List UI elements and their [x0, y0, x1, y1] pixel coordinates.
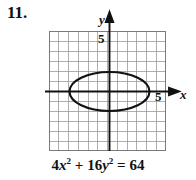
- equation-coef-y: 16: [87, 157, 102, 173]
- coordinate-graph: [49, 31, 166, 151]
- x-axis-label: x: [180, 88, 187, 101]
- equation-exponent-y: 2: [109, 156, 114, 166]
- equation-coef-x: 4: [52, 157, 60, 173]
- equation-constant: 64: [129, 157, 144, 173]
- equation-plus: +: [75, 157, 84, 173]
- equation-equals: =: [117, 157, 126, 173]
- equation-exponent-x: 2: [67, 156, 72, 166]
- x-axis-tick-label-5: 5: [155, 90, 162, 103]
- y-axis-tick-label-5: 5: [98, 32, 105, 45]
- y-axis-label: y: [99, 13, 105, 26]
- y-axis: [106, 12, 113, 151]
- equation-var-y: y: [102, 157, 109, 173]
- curve-svg: [49, 31, 166, 151]
- equation-var-x: x: [59, 157, 67, 173]
- figure-root: 11.: [0, 0, 196, 180]
- equation-caption: 4x2 + 16y2 = 64: [0, 156, 196, 174]
- problem-number: 11.: [7, 3, 27, 23]
